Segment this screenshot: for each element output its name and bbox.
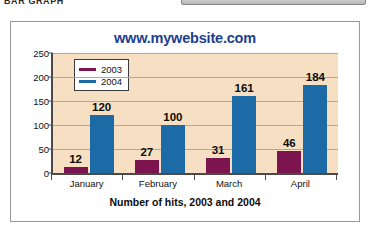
y-tick-label: 250	[15, 48, 49, 59]
gridline	[53, 53, 338, 54]
bar-value-label: 161	[235, 82, 254, 94]
y-tick-mark	[48, 77, 53, 78]
bar-2003-january	[64, 167, 88, 173]
gridline	[53, 77, 338, 78]
x-tick-label-april: April	[291, 178, 310, 189]
y-tick-label: 150	[15, 96, 49, 107]
document-heading: BAR GRAPH	[4, 0, 64, 6]
toolbar-bar[interactable]	[181, 0, 366, 5]
x-tick-label-march: March	[216, 178, 242, 189]
legend-label-2003: 2003	[101, 64, 122, 75]
x-tick-label-january: January	[70, 178, 104, 189]
bar-2004-april	[303, 85, 327, 173]
y-tick-mark	[48, 125, 53, 126]
bar-value-label: 27	[140, 146, 153, 158]
x-axis-title: Number of hits, 2003 and 2004	[11, 196, 359, 208]
bar-2003-april	[277, 151, 301, 173]
y-tick-label: 0	[15, 168, 49, 179]
x-axis: JanuaryFebruaryMarchApril	[51, 178, 336, 192]
legend-swatch-icon-2003	[79, 68, 96, 71]
legend-item-2003: 2003	[79, 63, 122, 75]
y-tick-mark	[48, 149, 53, 150]
y-tick-mark	[48, 53, 53, 54]
bar-value-label: 100	[163, 111, 182, 123]
chart-title: www.mywebsite.com	[11, 30, 359, 46]
bar-value-label: 31	[212, 144, 225, 156]
bar-value-label: 120	[92, 101, 111, 113]
x-tick-mark	[336, 175, 337, 180]
y-tick-mark	[48, 101, 53, 102]
y-tick-label: 100	[15, 120, 49, 131]
bar-value-label: 46	[283, 137, 296, 149]
y-axis: 050100150200250	[11, 53, 49, 173]
x-tick-label-february: February	[139, 178, 177, 189]
bar-2004-march	[232, 96, 256, 173]
bar-value-label: 12	[69, 153, 82, 165]
legend-swatch-icon-2004	[79, 80, 96, 83]
y-tick-label: 50	[15, 144, 49, 155]
bar-2003-march	[206, 158, 230, 173]
page-header-strip: BAR GRAPH	[0, 0, 370, 14]
y-tick-mark	[48, 173, 53, 174]
bar-value-label: 184	[306, 71, 325, 83]
bar-2003-february	[135, 160, 159, 173]
bar-2004-january	[90, 115, 114, 173]
bar-chart: www.mywebsite.com 050100150200250 2003 2…	[10, 21, 360, 222]
plot-area: 2003 2004 12120271003116146184	[51, 53, 338, 175]
legend: 2003 2004	[74, 59, 129, 91]
y-tick-label: 200	[15, 72, 49, 83]
bar-2004-february	[161, 125, 185, 173]
